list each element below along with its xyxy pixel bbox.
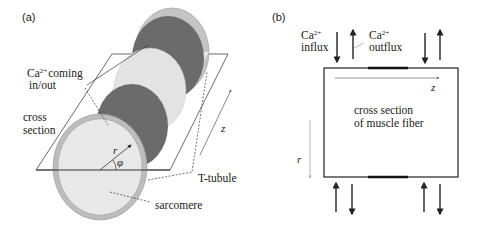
outflux-label: outflux — [369, 41, 402, 53]
z-label-a: z — [220, 122, 226, 134]
panel-a-label: (a) — [22, 11, 35, 23]
section-label: section — [23, 124, 56, 136]
phi-label: φ — [117, 156, 123, 168]
outflux-leader — [354, 43, 364, 48]
figure-canvas: (a) r φ — [0, 0, 478, 234]
influx-label: influx — [301, 41, 329, 53]
muscle-fiber-cylinder — [53, 8, 209, 220]
z-label-b: z — [430, 81, 436, 93]
r-label-b: r — [297, 153, 302, 165]
center-label-line2: of muscle fiber — [354, 117, 424, 129]
center-label-line1: cross section — [354, 104, 413, 116]
panel-a: (a) r φ — [22, 8, 237, 220]
t-tubule-label: T-tubule — [198, 172, 237, 184]
panel-b-label: (b) — [272, 11, 285, 23]
sarcomere-label: sarcomere — [155, 199, 202, 211]
cross-section-face — [58, 119, 142, 215]
in-out-label: in/out — [29, 79, 57, 91]
r-label-a: r — [113, 144, 118, 156]
outflux-ca-label: Ca2+ — [369, 29, 389, 41]
cross-label: cross — [23, 111, 47, 123]
z-arrow-a — [200, 90, 231, 155]
panel-b: (b) Ca2+ influx Ca2+ outflux z cross sec… — [272, 11, 458, 214]
influx-ca-label: Ca2+ — [301, 29, 321, 41]
